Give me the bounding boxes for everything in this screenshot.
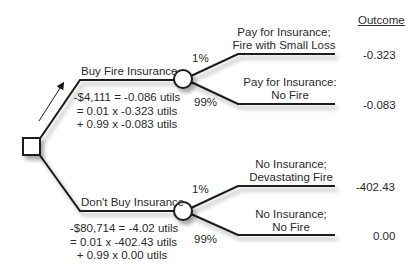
prob-label: 99%	[194, 96, 217, 109]
outcome-column-header: Outcome	[358, 14, 405, 27]
outcome-label-small-loss: Pay for Insurance; Fire with Small Loss	[232, 26, 336, 52]
decision-node-square	[23, 138, 40, 155]
arrow-icon	[39, 85, 62, 121]
branch-devastating-fire	[191, 186, 335, 208]
decision-tree-graphic	[0, 0, 419, 272]
calc-dont-buy: -$80,714 = -4.02 utils = 0.01 x -402.43 …	[70, 222, 174, 263]
label-line: No Insurance;	[248, 208, 334, 221]
outcome-label-devastating-fire: No Insurance; Devastating Fire	[248, 158, 334, 184]
outcome-label-no-fire-uninsured: No Insurance; No Fire	[248, 208, 334, 234]
branch-small-loss	[191, 54, 335, 76]
prob-label: 99%	[194, 233, 217, 246]
label-line: Pay for Insurance:	[240, 76, 340, 89]
calc-line: = 0.01 x -402.43 utils	[70, 236, 174, 250]
prob-label: 1%	[192, 52, 209, 65]
label-line: Devastating Fire	[248, 171, 334, 184]
calc-line: -$80,714 = -4.02 utils	[70, 222, 174, 236]
calc-line: + 0.99 x 0.00 utils	[70, 249, 174, 263]
label-line: Fire with Small Loss	[232, 39, 336, 52]
prob-label: 1%	[192, 183, 209, 196]
calc-buy: -$4,111 = -0.086 utils = 0.01 x -0.323 u…	[72, 91, 182, 132]
outcome-value: -402.43	[356, 181, 395, 194]
outcome-value: 0.00	[373, 230, 395, 243]
calc-line: + 0.99 x -0.083 utils	[72, 118, 182, 132]
label-line: Pay for Insurance;	[232, 26, 336, 39]
label-line: No Fire	[248, 221, 334, 234]
outcome-value: -0.083	[363, 99, 396, 112]
calc-line: -$4,111 = -0.086 utils	[72, 91, 182, 105]
outcome-label-no-fire-insured: Pay for Insurance: No Fire	[240, 76, 340, 102]
label-line: No Insurance;	[248, 158, 334, 171]
label-line: No Fire	[240, 89, 340, 102]
calc-line: = 0.01 x -0.323 utils	[72, 105, 182, 119]
outcome-value: -0.323	[363, 49, 396, 62]
option-label-dont-buy: Don't Buy Insurance	[81, 196, 184, 209]
option-label-buy: Buy Fire Insurance	[81, 65, 178, 78]
